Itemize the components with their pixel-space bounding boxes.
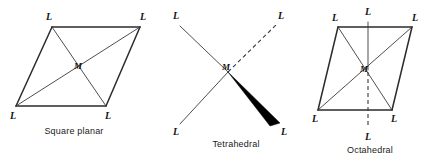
bond-upper-left: [180, 26, 228, 72]
square-planar-ligand-top-left: L: [45, 11, 52, 22]
octahedral-ligand-top-right: L: [411, 12, 418, 23]
bond-lower-left: [180, 72, 228, 124]
bond-wedge-lower-right: [228, 72, 280, 126]
tetrahedral-caption: Tetrahedral: [212, 139, 259, 149]
bond-right-edge: [106, 27, 140, 106]
square-planar-panel: L L L L M Square planar: [9, 11, 146, 136]
octahedral-ligand-axial-top: L: [364, 6, 371, 17]
tetrahedral-ligand-top-left: L: [172, 10, 179, 21]
octahedral-metal-center: M: [359, 64, 369, 74]
octahedral-ligand-top-left: L: [331, 12, 338, 23]
coordination-geometry-figure: L L L L M Square planar L L L L M Tetrah…: [0, 0, 425, 158]
octahedral-ligand-bottom-left: L: [311, 113, 318, 124]
oct-bond-left-edge: [318, 27, 338, 110]
square-planar-ligand-bottom-left: L: [9, 110, 16, 121]
octahedral-ligand-axial-bottom: L: [364, 131, 371, 142]
square-planar-caption: Square planar: [44, 126, 103, 136]
octahedral-caption: Octahedral: [347, 145, 393, 155]
square-planar-ligand-top-right: L: [139, 11, 146, 22]
octahedral-ligand-bottom-right: L: [390, 113, 397, 124]
square-planar-metal-center: M: [73, 61, 83, 71]
octahedral-panel: L L L L L L M Octahedral: [311, 6, 418, 155]
tetrahedral-ligand-bottom-right: L: [280, 126, 287, 137]
bond-dashed-upper-right: [228, 24, 277, 72]
square-planar-ligand-bottom-right: L: [104, 110, 111, 121]
tetrahedral-panel: L L L L M Tetrahedral: [172, 10, 287, 149]
tetrahedral-ligand-top-right: L: [277, 10, 284, 21]
oct-bond-right-edge: [392, 27, 412, 110]
tetrahedral-ligand-bottom-left: L: [172, 126, 179, 137]
tetrahedral-metal-center: M: [221, 62, 231, 72]
